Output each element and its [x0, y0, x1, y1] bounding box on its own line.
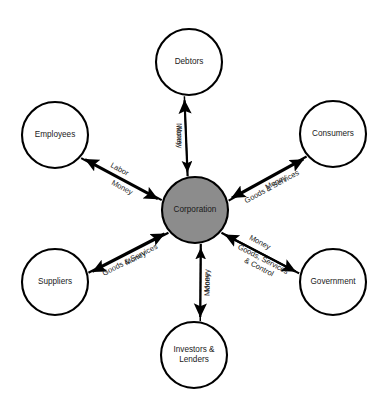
edge-label-text: Money	[202, 273, 211, 296]
edge-label-text: Money	[174, 123, 184, 146]
node-label-corporation: Corporation	[174, 205, 217, 214]
node-government[interactable]: Government	[300, 249, 366, 315]
node-label-investors: Investors &	[174, 345, 215, 354]
nodes-layer: DebtorsEmployeesConsumersSuppliersGovern…	[22, 29, 366, 388]
node-label-employees: Employees	[35, 130, 76, 139]
node-label-suppliers: Suppliers	[38, 277, 72, 286]
edge-label-suppliers-to-corp: Goods & Services	[101, 242, 159, 278]
node-suppliers[interactable]: Suppliers	[22, 249, 88, 315]
edge-label-investors-to-corp: Money	[202, 273, 211, 296]
edge-label-debtors-to-corp: Money	[174, 123, 184, 146]
node-employees[interactable]: Employees	[22, 102, 88, 168]
node-corporation[interactable]: Corporation	[162, 177, 228, 243]
node-label-consumers: Consumers	[312, 129, 354, 138]
edge-label-text: Goods & Services	[101, 242, 159, 278]
diagram-canvas: DebtorsEmployeesConsumersSuppliersGovern…	[0, 0, 389, 407]
edge-label-govt-to-corp: Goods, Services& Control	[232, 242, 290, 284]
node-label-debtors: Debtors	[175, 57, 204, 66]
node-debtors[interactable]: Debtors	[156, 29, 222, 95]
node-investors[interactable]: Investors &Lenders	[161, 322, 227, 388]
edge-investors-to-corp	[200, 248, 201, 321]
node-label-investors: Lenders	[179, 355, 209, 364]
stakeholder-diagram: DebtorsEmployeesConsumersSuppliersGovern…	[0, 0, 389, 407]
node-consumers[interactable]: Consumers	[300, 101, 366, 167]
node-label-government: Government	[310, 277, 356, 286]
